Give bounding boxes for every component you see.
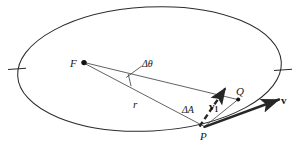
orbit-ellipse: [14, 0, 284, 138]
point-q-marker: [236, 98, 240, 102]
left-vertex-tick-icon: [8, 68, 26, 69]
label-focus-f: F: [70, 58, 77, 69]
figure-canvas: [0, 0, 299, 151]
label-point-p: P: [200, 131, 207, 142]
label-delta-area: ΔA: [182, 105, 194, 115]
kepler-area-figure: F Δθ r ΔA v1 Q P v: [0, 0, 299, 151]
label-point-q: Q: [236, 86, 244, 97]
radius-segment-fp: [85, 63, 205, 126]
label-velocity-v1: v1: [209, 101, 218, 113]
radius-segment-fq: [85, 63, 238, 100]
right-vertex-tick-icon: [274, 69, 292, 70]
label-delta-theta: Δθ: [142, 59, 153, 69]
focus-point-marker: [81, 60, 86, 65]
label-velocity-v1-subscript: 1: [215, 105, 219, 114]
label-radius-r: r: [133, 99, 137, 110]
label-velocity-v: v: [281, 95, 287, 106]
